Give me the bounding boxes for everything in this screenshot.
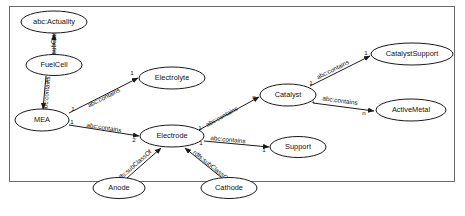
edge-label: abc:contains <box>204 105 238 128</box>
node-support[interactable]: Support <box>270 137 326 158</box>
node-label: Support <box>285 142 311 151</box>
source-cardinality: 1 <box>71 105 75 112</box>
node-label: MEA <box>34 115 50 124</box>
edge-catalyst-to-catalystsupport: abc:contains11 <box>309 49 370 86</box>
ontology-graph: rdfs:subClassOfabc:contains1nabc:contain… <box>0 0 465 216</box>
node-cathode[interactable]: Cathode <box>201 178 257 199</box>
edge-electrode-to-support: abc:contains11 <box>199 134 269 153</box>
source-cardinality: 1 <box>45 76 49 83</box>
node-anode[interactable]: Anode <box>93 178 145 199</box>
edges-layer: rdfs:subClassOfabc:contains1nabc:contain… <box>41 21 374 182</box>
node-catalystsupport[interactable]: CatalystSupport <box>371 43 453 65</box>
node-label: ActiveMetal <box>392 105 431 114</box>
node-label: Electrolyte <box>155 73 190 82</box>
node-catalyst[interactable]: Catalyst <box>260 84 316 106</box>
node-label: Cathode <box>215 183 243 192</box>
edge-mea-to-electrode: abc:contains12 <box>69 118 139 143</box>
node-electrolyte[interactable]: Electrolyte <box>139 67 205 89</box>
source-cardinality: 1 <box>309 79 313 86</box>
edge-label: abc:contains <box>322 94 358 106</box>
target-cardinality: 2 <box>132 136 136 143</box>
source-cardinality: 1 <box>70 118 74 125</box>
node-label: CatalystSupport <box>386 49 439 58</box>
target-cardinality: n <box>252 93 256 100</box>
edge-label: abc:contains <box>86 121 122 133</box>
node-label: abc:Actuality <box>33 17 75 26</box>
node-label: FuelCell <box>40 60 67 69</box>
edge-label: abc:contains <box>315 58 350 80</box>
target-cardinality: 1 <box>262 146 266 153</box>
node-electrode[interactable]: Electrode <box>140 125 204 147</box>
edge-label: abc:contains <box>86 86 121 108</box>
edge-line <box>310 56 370 86</box>
target-cardinality: 1 <box>130 69 134 76</box>
edge-catalyst-to-activemetal: abc:contains1n <box>311 94 374 115</box>
edge-mea-to-electrolyte: abc:contains11 <box>69 69 138 113</box>
edge-electrode-to-catalyst: abc:contains1n <box>198 93 259 131</box>
node-label: Catalyst <box>275 90 302 99</box>
node-label: Anode <box>108 183 129 192</box>
node-fuelcell[interactable]: FuelCell <box>26 55 82 76</box>
node-actuality[interactable]: abc:Actuality <box>21 11 87 33</box>
target-cardinality: 1 <box>364 49 368 56</box>
node-activemetal[interactable]: ActiveMetal <box>376 99 446 121</box>
node-mea[interactable]: MEA <box>15 109 69 131</box>
node-label: Electrode <box>156 131 187 140</box>
target-cardinality: n <box>362 109 366 116</box>
diagram-canvas: rdfs:subClassOfabc:contains1nabc:contain… <box>0 0 465 216</box>
